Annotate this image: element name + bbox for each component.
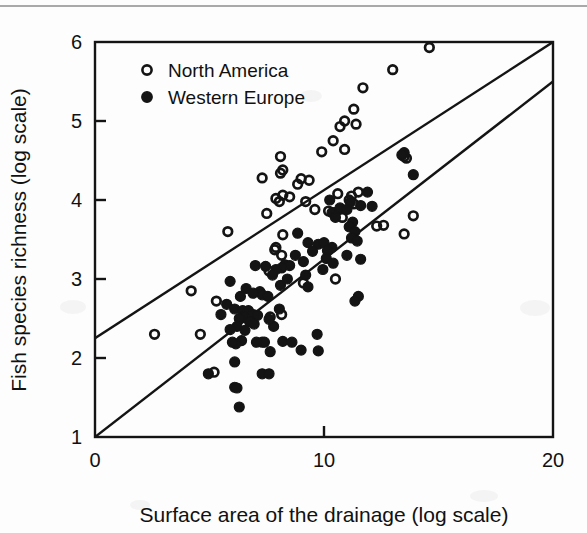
data-point-filled — [342, 250, 352, 260]
data-point-filled — [203, 369, 213, 379]
legend-marker-filled-circle-icon — [142, 92, 152, 102]
data-point-open — [285, 193, 294, 202]
data-point-open — [331, 275, 340, 284]
data-point-filled — [216, 310, 226, 320]
scatter-plot: 123456 01020 North America Western Europ… — [0, 0, 587, 533]
data-point-filled — [303, 282, 313, 292]
data-point-filled — [293, 228, 303, 238]
data-point-filled — [282, 274, 292, 284]
data-point-open — [340, 145, 349, 154]
data-point-open — [311, 205, 320, 214]
data-point-filled — [278, 336, 288, 346]
data-point-open — [352, 120, 361, 129]
x-axis-title: Surface area of the drainage (log scale) — [140, 503, 509, 526]
data-point-filled — [227, 337, 237, 347]
data-point-filled — [232, 383, 242, 393]
y-axis-ticks — [95, 121, 106, 358]
data-point-filled — [251, 337, 261, 347]
data-point-filled — [234, 402, 244, 412]
data-point-filled — [296, 345, 306, 355]
y-tick-label: 4 — [71, 189, 82, 211]
x-tick-label: 0 — [89, 449, 100, 471]
data-point-filled — [225, 325, 235, 335]
data-point-filled — [356, 201, 366, 211]
data-point-open — [262, 209, 271, 218]
data-point-open — [400, 230, 409, 239]
y-axis-title: Fish species richness (log scale) — [7, 88, 30, 391]
data-point-filled — [235, 291, 245, 301]
series-western-europe — [203, 148, 418, 412]
data-point-filled — [261, 261, 271, 271]
data-point-filled — [318, 265, 328, 275]
data-point-open — [388, 65, 397, 74]
y-tick-label: 2 — [71, 347, 82, 369]
data-point-open — [354, 188, 363, 197]
data-point-open — [317, 148, 326, 157]
data-point-filled — [225, 276, 235, 286]
x-tick-label: 10 — [313, 449, 335, 471]
data-point-open — [258, 174, 267, 183]
data-point-filled — [290, 250, 300, 260]
north-america-trend — [95, 42, 553, 338]
data-point-filled — [264, 369, 274, 379]
data-point-open — [359, 84, 368, 93]
data-point-filled — [267, 270, 277, 280]
data-point-open — [196, 330, 205, 339]
data-point-filled — [249, 319, 259, 329]
data-point-filled — [325, 195, 335, 205]
data-point-open — [212, 297, 221, 306]
data-point-filled — [308, 246, 318, 256]
data-point-open — [150, 330, 159, 339]
legend-label-north-america: North America — [168, 60, 289, 81]
y-tick-label: 5 — [71, 110, 82, 132]
data-point-open — [409, 212, 418, 221]
legend-label-western-europe: Western Europe — [168, 87, 305, 108]
data-point-filled — [274, 304, 284, 314]
data-point-filled — [248, 288, 258, 298]
data-point-open — [276, 152, 285, 161]
data-point-filled — [250, 261, 260, 271]
y-tick-label: 3 — [71, 268, 82, 290]
data-point-filled — [263, 291, 273, 301]
data-point-open — [333, 189, 342, 198]
figure-root: 123456 01020 North America Western Europ… — [0, 0, 587, 533]
data-point-open — [372, 222, 381, 231]
data-point-open — [349, 105, 358, 114]
y-axis-tick-labels: 123456 — [71, 31, 82, 448]
data-point-filled — [265, 347, 275, 357]
data-point-filled — [230, 357, 240, 367]
legend-marker-open-circle-icon — [142, 65, 151, 74]
data-point-open — [224, 227, 233, 236]
data-point-filled — [313, 346, 323, 356]
data-point-open — [425, 43, 434, 52]
data-point-filled — [408, 170, 418, 180]
data-point-filled — [330, 212, 340, 222]
data-point-open — [336, 122, 345, 131]
y-tick-label: 6 — [71, 31, 82, 53]
data-point-open — [329, 136, 338, 145]
data-point-filled — [287, 337, 297, 347]
data-point-filled — [352, 236, 362, 246]
data-point-filled — [397, 150, 407, 160]
data-point-filled — [312, 329, 322, 339]
data-point-open — [187, 287, 196, 296]
x-tick-label: 20 — [542, 449, 564, 471]
data-point-filled — [301, 270, 311, 280]
y-tick-label: 1 — [71, 426, 82, 448]
data-point-filled — [264, 314, 274, 324]
data-point-open — [305, 176, 314, 185]
data-point-filled — [350, 296, 360, 306]
data-point-filled — [367, 201, 377, 211]
data-point-open — [277, 251, 286, 260]
data-point-filled — [240, 325, 250, 335]
data-point-filled — [342, 204, 352, 214]
data-point-filled — [356, 254, 366, 264]
data-point-filled — [328, 258, 338, 268]
data-point-filled — [363, 187, 373, 197]
data-point-open — [278, 230, 287, 239]
chart-legend: North America Western Europe — [142, 60, 305, 108]
x-axis-tick-labels: 01020 — [89, 449, 564, 471]
data-point-open — [293, 180, 302, 189]
